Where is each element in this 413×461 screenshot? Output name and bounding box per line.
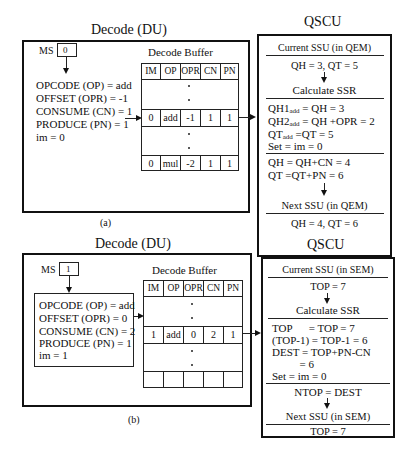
next-values-a: QH = 4, QT = 6	[257, 217, 392, 230]
ellipsis-dot	[191, 350, 193, 352]
cell-pn: 1	[221, 156, 238, 171]
cell-opr: -1	[181, 110, 201, 126]
cell-opr: 0	[184, 327, 204, 343]
current-values-b: TOP = 7	[261, 280, 395, 293]
divider	[266, 55, 384, 56]
cell-pn	[224, 372, 242, 388]
ms-label-a: MS	[39, 44, 53, 57]
calculate-ssr-b: Calculate SSR	[261, 304, 395, 317]
header-im: IM	[144, 281, 164, 296]
header-cn: CN	[201, 64, 221, 79]
header-opr: OPR	[181, 64, 201, 79]
figure-label-b: (b)	[128, 413, 140, 426]
cell-cn: 1	[201, 156, 221, 171]
divider	[266, 383, 390, 384]
cell-op: add	[164, 327, 184, 343]
next-ssu-b: Next SSU (in SEM)	[261, 410, 395, 423]
header-im: IM	[142, 64, 161, 79]
buffer-title-b: Decode Buffer	[152, 264, 217, 277]
header-pn: PN	[221, 64, 238, 79]
divider	[266, 98, 384, 99]
decode-buffer-a: IM OP OPR CN PN 0 add -1 1 1 0 mul -2 1 …	[141, 63, 239, 171]
cell-opr	[184, 372, 204, 388]
cell-pn: 1	[224, 327, 242, 343]
update-line-a: QH = QH+CN = 4	[268, 156, 350, 169]
header-opr: OPR	[184, 281, 204, 296]
arrow-down-icon	[321, 77, 327, 83]
buffer-header-a: IM OP OPR CN PN	[142, 64, 238, 80]
divider	[266, 153, 384, 154]
field-offset-a: OFFSET (OPR) = -1	[36, 92, 128, 105]
field-opcode-a: OPCODE (OP) = add	[36, 79, 132, 92]
field-im-b: im = 1	[39, 349, 68, 362]
update-line-a: QT =QT+PN = 6	[268, 169, 344, 182]
divider	[266, 213, 384, 214]
ellipsis-dot	[188, 85, 190, 87]
arrow-right-icon	[250, 114, 256, 120]
buffer-row-active-a: 0 add -1 1 1	[142, 109, 238, 127]
ellipsis-dot	[188, 99, 190, 101]
cell-cn: 2	[204, 327, 224, 343]
ellipsis-dot	[188, 133, 190, 135]
header-op: OP	[164, 281, 184, 296]
decode-buffer-b: IM OP OPR CN PN 1 add 0 2 1	[143, 280, 243, 388]
cell-op: add	[161, 110, 181, 126]
next-values-b: TOP = 7	[261, 425, 395, 438]
qscu-title-b: QSCU	[307, 237, 344, 253]
ellipsis-dot	[191, 364, 193, 366]
cell-cn	[204, 372, 224, 388]
current-ssu-a: Current SSU (in QEM)	[257, 41, 392, 54]
next-ssu-a: Next SSU (in QEM)	[257, 199, 392, 212]
ellipsis-dot	[191, 303, 193, 305]
buffer-title-a: Decode Buffer	[148, 46, 213, 59]
arrow-down-icon	[324, 403, 330, 409]
buffer-row-empty-b	[144, 371, 242, 388]
ms-value-a: 0	[63, 44, 68, 57]
arrow-down-icon	[321, 190, 327, 196]
field-opcode-b: OPCODE (OP) = add	[39, 299, 135, 312]
field-im-a: im = 0	[36, 131, 65, 144]
ellipsis-dot	[188, 147, 190, 149]
header-op: OP	[161, 64, 181, 79]
calc-line-b: Set = im = 0	[272, 370, 327, 383]
arrow-down-icon	[63, 68, 69, 74]
header-cn: CN	[204, 281, 224, 296]
buffer-header-b: IM OP OPR CN PN	[144, 281, 242, 297]
current-ssu-b: Current SSU (in SEM)	[261, 263, 395, 276]
qscu-title-a: QSCU	[304, 14, 341, 30]
figure-label-a: (a)	[100, 216, 111, 229]
cell-op: mul	[161, 156, 181, 171]
calculate-ssr-a: Calculate SSR	[257, 84, 392, 97]
divider	[268, 277, 388, 278]
du-title-b: Decode (DU)	[95, 236, 171, 252]
divider	[268, 318, 388, 319]
cell-cn: 1	[201, 110, 221, 126]
ms-value-b: 1	[66, 263, 71, 276]
cell-im: 1	[144, 327, 164, 343]
cell-im	[144, 372, 164, 388]
field-offset-b: OFFSET (OPR) = 0	[39, 312, 127, 325]
cell-im: 0	[142, 156, 161, 171]
header-pn: PN	[224, 281, 242, 296]
cell-im: 0	[142, 110, 161, 126]
ms-box-a: 0	[57, 43, 77, 57]
ms-box-b: 1	[59, 262, 79, 276]
cell-pn: 1	[221, 110, 238, 126]
field-produce-a: PRODUCE (PN) = 1	[36, 118, 129, 131]
update-line-b: NTOP = DEST	[261, 386, 395, 399]
current-values-a: QH = 3, QT = 5	[257, 59, 392, 72]
buffer-row-last-a: 0 mul -2 1 1	[142, 155, 238, 171]
ms-label-b: MS	[41, 263, 55, 276]
cell-opr: -2	[181, 156, 201, 171]
field-consume-a: CONSUME (CN) = 1	[36, 105, 132, 118]
ellipsis-dot	[191, 317, 193, 319]
cell-op	[164, 372, 184, 388]
du-title-a: Decode (DU)	[91, 22, 167, 38]
buffer-row-active-b: 1 add 0 2 1	[144, 326, 242, 344]
calc-line-a: Set = im = 0	[268, 140, 323, 153]
